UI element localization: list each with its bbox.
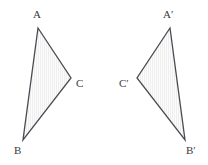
triangle-a-prime-b-prime-c-prime [137, 28, 185, 140]
vertex-label-b-prime: B′ [186, 145, 196, 156]
vertex-label-c-prime: C′ [119, 78, 129, 89]
vertex-label-c: C [76, 78, 83, 89]
vertex-label-b: B [14, 145, 21, 156]
figure-canvas [0, 0, 208, 165]
triangle-abc [23, 28, 71, 140]
geometry-figure: A C B A′ C′ B′ [0, 0, 208, 165]
vertex-label-a: A [33, 9, 41, 20]
vertex-label-a-prime: A′ [163, 9, 173, 20]
